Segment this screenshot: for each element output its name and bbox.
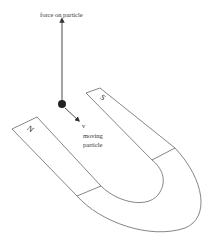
north-pole-label: N xyxy=(25,124,35,135)
north-arm-outer-edge xyxy=(12,129,77,196)
velocity-label: v xyxy=(82,122,86,129)
horseshoe-magnet xyxy=(12,88,201,232)
south-arm-outer-edge xyxy=(100,88,175,148)
outer-bend xyxy=(77,148,201,232)
moving-particle-label-line2: particle xyxy=(83,141,103,148)
inner-bend xyxy=(101,160,163,203)
moving-particle-label-line1: moving xyxy=(83,132,104,139)
north-arm-inner-edge xyxy=(37,117,101,186)
south-pole-face xyxy=(86,88,100,93)
south-arm-divider xyxy=(152,148,175,160)
velocity-arrow xyxy=(65,108,78,120)
magnet-force-diagram: N S force on particle v moving particle xyxy=(0,0,216,243)
force-label: force on particle xyxy=(40,11,83,18)
north-arm-divider xyxy=(77,186,101,196)
moving-particle xyxy=(58,100,66,108)
south-pole-label: S xyxy=(98,93,107,103)
